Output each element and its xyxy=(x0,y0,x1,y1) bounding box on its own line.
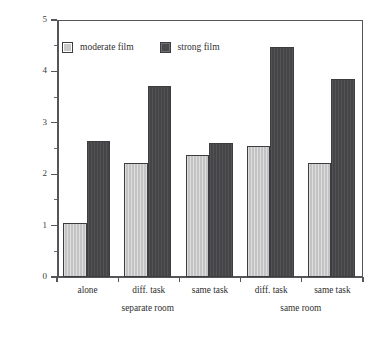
bar-strong-film xyxy=(270,47,294,277)
x-tick xyxy=(56,277,57,282)
legend-label-moderate: moderate film xyxy=(80,42,134,52)
y-tick-minor xyxy=(54,45,58,46)
y-tick-label: 4 xyxy=(27,65,47,75)
bar-strong-film xyxy=(209,143,233,277)
y-tick-major xyxy=(51,225,57,226)
bar-moderate-film xyxy=(124,163,148,277)
bar-moderate-film xyxy=(63,223,87,277)
x-tick xyxy=(240,277,241,282)
y-axis-line xyxy=(57,20,59,278)
legend-entry-moderate: moderate film xyxy=(62,42,134,53)
x-axis-group-label: separate room xyxy=(88,303,208,313)
y-tick-label: 3 xyxy=(27,117,47,127)
y-tick-minor xyxy=(54,251,58,252)
legend-entry-strong: strong film xyxy=(160,42,220,53)
bar-strong-film xyxy=(87,141,111,277)
x-axis-group-label: same room xyxy=(241,303,361,313)
x-tick xyxy=(301,277,302,282)
y-tick-major xyxy=(51,19,57,20)
bar-moderate-film xyxy=(186,155,210,277)
bar-chart-figure: Number of AU12 012345 alonediff. tasksam… xyxy=(0,0,386,337)
y-tick-major xyxy=(51,174,57,175)
x-tick xyxy=(118,277,119,282)
y-tick-label: 5 xyxy=(27,14,47,24)
y-tick-minor xyxy=(54,199,58,200)
y-tick-label: 1 xyxy=(27,220,47,230)
y-tick-minor xyxy=(54,97,58,98)
bar-moderate-film xyxy=(308,163,332,277)
x-tick-label: same task xyxy=(292,285,373,295)
bar-strong-film xyxy=(148,86,172,277)
y-tick-major xyxy=(51,71,57,72)
moderate-swatch-icon xyxy=(62,42,73,53)
chart-legend: moderate film strong film xyxy=(62,39,220,55)
strong-swatch-icon xyxy=(160,42,171,53)
bar-strong-film xyxy=(331,79,355,277)
y-tick-major xyxy=(51,122,57,123)
x-tick xyxy=(179,277,180,282)
x-tick xyxy=(362,277,363,282)
y-tick-label: 2 xyxy=(27,168,47,178)
legend-label-strong: strong film xyxy=(178,42,220,52)
y-tick-minor xyxy=(54,148,58,149)
y-tick-label: 0 xyxy=(27,271,47,281)
bar-moderate-film xyxy=(247,146,271,277)
